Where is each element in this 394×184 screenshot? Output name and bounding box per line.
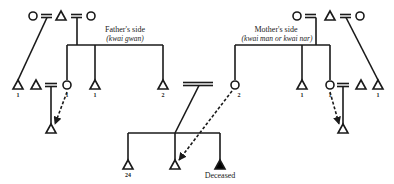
- maternal-grandfather-triangle: [325, 11, 335, 20]
- obligation-arrow: [179, 91, 232, 160]
- mothers-side-title: Mother's side: [244, 25, 308, 34]
- sibling-triangle: [123, 160, 133, 169]
- descent-line: [175, 86, 199, 134]
- mother-circle: [231, 81, 239, 89]
- count-label: 2: [235, 92, 243, 98]
- paternal-cousin-triangle: [46, 124, 56, 133]
- count-label: 24: [122, 172, 134, 178]
- paternal-aunt-circle: [63, 81, 71, 89]
- count-label: 1: [326, 92, 334, 98]
- paternal-uncle-2-triangle: [158, 80, 168, 89]
- maternal-grandfather-second-wife-circle: [356, 12, 364, 20]
- fathers-side-subtitle: (kwai gwan): [100, 34, 150, 43]
- center-family-group: [123, 83, 232, 170]
- count-label: 1: [298, 92, 306, 98]
- maternal-aunt-husband-triangle: [356, 80, 366, 89]
- deceased-triangle: [215, 160, 225, 169]
- paternal-grandmother-circle: [87, 12, 95, 20]
- count-label: 1: [91, 92, 99, 98]
- maternal-grandmother-circle: [293, 12, 301, 20]
- maternal-uncle-triangle: [297, 80, 307, 89]
- aunt-husband-triangle: [31, 80, 41, 89]
- deceased-label: Deceased: [200, 171, 240, 180]
- maternal-half-uncle-triangle: [373, 80, 383, 89]
- paternal-grandfather-triangle: [56, 11, 66, 20]
- kinship-diagram: [0, 0, 394, 184]
- paternal-grandfather-first-wife-circle: [29, 12, 37, 20]
- descent-line: [346, 18, 378, 81]
- paternal-uncle-triangle: [90, 80, 100, 89]
- maternal-cousin-triangle: [338, 124, 348, 133]
- fathers-side-title: Father's side: [100, 25, 150, 34]
- mothers-side-subtitle: (kwai man or kwai nar): [240, 34, 314, 43]
- count-label: 1: [14, 92, 22, 98]
- count-label: 1: [63, 92, 71, 98]
- descent-line: [18, 18, 47, 81]
- count-label: 1: [374, 92, 382, 98]
- maternal-aunt-circle: [326, 81, 334, 89]
- half-brother-triangle: [13, 80, 23, 89]
- count-label: 2: [159, 92, 167, 98]
- ego-triangle: [170, 160, 180, 169]
